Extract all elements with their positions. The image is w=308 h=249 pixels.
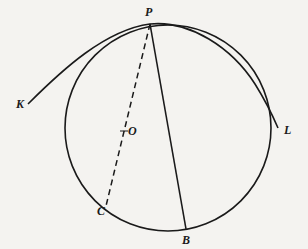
label-l: L	[283, 123, 291, 137]
label-b: B	[181, 233, 190, 247]
chord-pb	[150, 24, 186, 229]
dashed-line-pc	[106, 24, 150, 206]
label-c: C	[97, 204, 106, 218]
diagram-canvas: P K L O C B	[0, 0, 308, 249]
geometry-figure: P K L O C B	[0, 0, 308, 249]
label-o: O	[128, 124, 137, 138]
label-p: P	[145, 5, 153, 19]
label-k: K	[15, 97, 25, 111]
